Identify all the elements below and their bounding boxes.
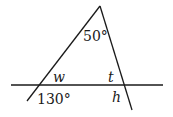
angle-t-label: t <box>108 69 114 85</box>
left-side-line <box>27 6 100 101</box>
angle-w-label: w <box>53 69 65 85</box>
exterior-angle-label: 130° <box>37 91 71 107</box>
angle-h-label: h <box>112 89 121 105</box>
triangle-transversal-diagram: 50° w 130° t h <box>0 0 173 117</box>
apex-angle-label: 50° <box>83 28 108 44</box>
